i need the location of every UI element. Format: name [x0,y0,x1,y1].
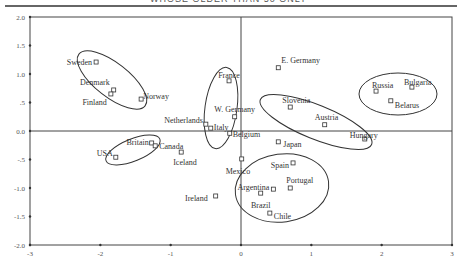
y-tick-label: 1.5 [16,42,25,50]
point-label: Belgium [233,130,261,139]
point-label: Sweden [67,58,92,67]
data-point-bulgaria: Bulgaria [404,78,432,89]
point-label: Bulgaria [404,78,432,87]
y-tick-mark [29,215,31,217]
square-marker-icon [233,115,237,119]
point-label: Britain [126,138,148,147]
data-point-britain: Britain [126,138,153,147]
point-label: Netherlands [164,116,203,125]
data-point-russia: Russia [372,81,394,93]
square-marker-icon [291,161,295,165]
point-label: Brazil [251,201,271,210]
square-marker-icon [114,155,118,159]
square-marker-icon [204,122,208,126]
x-tick-mark [240,244,242,246]
square-marker-icon [94,60,98,64]
square-marker-icon [276,140,280,144]
square-marker-icon [271,187,275,191]
data-point-e-germany: E. Germany [276,56,320,70]
data-point-austria: Austria [315,113,339,127]
point-label: Mexico [226,167,250,176]
square-marker-icon [112,88,116,92]
y-tick-mark [29,158,31,160]
point-label: Spain [271,161,289,170]
data-point-belarus: Belarus [389,99,419,110]
point-label: Japan [283,140,301,149]
y-tick-label: 0.0 [16,128,25,136]
data-points: SwedenDenmarkFinlandNorwayFranceE. Germa… [67,56,432,221]
x-tick-mark [380,244,382,246]
square-marker-icon [240,157,244,161]
point-label: France [218,71,240,80]
data-point-argentina: Argentina [238,183,276,192]
x-tick-label: -1 [168,250,174,258]
square-marker-icon [209,126,213,130]
data-point-w-germany: W. Germany [214,105,255,119]
data-point-brazil: Brazil [251,191,271,210]
square-marker-icon [153,144,157,148]
y-tick-mark [29,44,31,46]
data-point-sweden: Sweden [67,58,98,67]
data-point-finland: Finland [82,92,112,107]
point-label: E. Germany [281,56,320,65]
data-point-chile: Chile [268,211,292,221]
y-tick-mark [29,73,31,75]
point-label: USA [97,149,113,158]
square-marker-icon [259,191,263,195]
y-tick-mark [29,244,31,246]
x-tick-label: 1 [310,250,314,258]
data-point-usa: USA [97,149,118,159]
data-point-japan: Japan [276,140,301,149]
point-label: Russia [372,81,394,90]
square-marker-icon [268,211,272,215]
square-marker-icon [288,186,292,190]
x-tick-label: -3 [27,250,33,258]
data-point-hungary: Hungary [350,131,378,141]
point-label: Austria [315,113,339,122]
data-point-norway: Norway [139,92,169,101]
point-label: Argentina [238,183,270,192]
x-tick-mark [451,244,453,246]
y-tick-label: -1.0 [14,185,26,193]
square-marker-icon [214,194,218,198]
point-label: Iceland [173,158,197,167]
point-label: W. Germany [214,105,255,114]
y-tick-label: 2.0 [16,14,25,22]
point-label: Chile [274,212,292,221]
point-label: Norway [143,92,169,101]
data-point-slovenia: Slovenia [282,96,310,109]
y-tick-label: -1.5 [14,213,26,221]
data-point-spain: Spain [271,161,295,170]
point-label: Finland [82,98,106,107]
x-tick-label: 2 [380,250,384,258]
point-label: Canada [159,142,183,151]
y-tick-mark [29,130,31,132]
y-tick-mark [29,101,31,103]
data-point-belgium: Belgium [228,130,261,139]
y-tick-label: -2.0 [14,242,26,250]
y-tick-label: -.5 [17,156,25,164]
point-label: Portugal [286,176,314,185]
square-marker-icon [109,92,113,96]
square-marker-icon [288,105,292,109]
x-tick-mark [99,244,101,246]
data-point-mexico: Mexico [226,157,250,176]
square-marker-icon [228,131,232,135]
point-label: Ireland [185,194,208,203]
data-point-iceland: Iceland [173,150,197,167]
x-tick-label: -2 [97,250,103,258]
point-label: Italy [214,123,229,132]
data-point-ireland: Ireland [185,194,218,203]
point-label: Denmark [80,78,110,87]
y-tick-label: 1.0 [16,71,25,79]
data-point-france: France [218,71,240,83]
point-label: Slovenia [282,96,310,105]
y-tick-mark [29,187,31,189]
square-marker-icon [323,123,327,127]
x-tick-label: 3 [450,250,454,258]
y-tick-mark [29,16,31,18]
point-label: Hungary [350,131,378,140]
square-marker-icon [179,150,183,154]
x-tick-mark [169,244,171,246]
scatter-plot: -3-2-101232.01.51.0.50.0-.5-1.0-1.5-2.0 … [0,0,457,265]
